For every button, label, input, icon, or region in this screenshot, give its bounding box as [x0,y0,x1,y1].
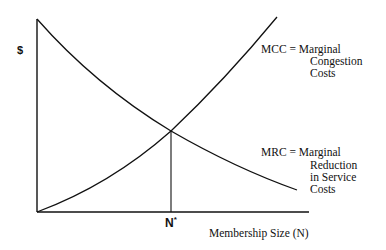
mcc-label-line-3: Costs [310,67,336,79]
equilibrium-label: N* [165,215,178,230]
y-axis-label: $ [17,44,23,56]
mrc-label-line-2: Reduction [310,159,358,171]
mcc-curve [37,17,277,212]
mrc-label-line-1: MRC = Marginal [261,146,341,159]
club-size-diagram: $ N* Membership Size (N) MCC = Marginal … [0,0,386,250]
mrc-curve [37,19,297,190]
x-axis-label: Membership Size (N) [209,227,309,240]
mrc-label-line-3: in Service [310,171,356,183]
mrc-label-line-4: Costs [310,183,336,195]
